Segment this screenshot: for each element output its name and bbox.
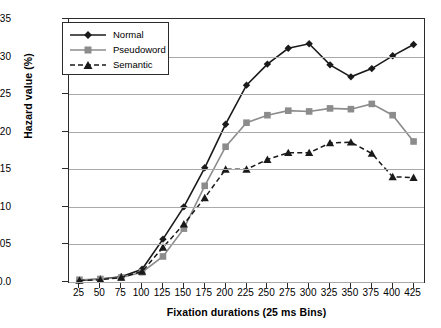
series-line (79, 104, 413, 280)
series-line (79, 142, 413, 280)
y-tick-label: 0.0 (0, 276, 16, 287)
legend: Normal Pseudoword Semantic (62, 22, 169, 75)
data-point-marker (285, 107, 292, 114)
x-tick-label: 425 (393, 287, 433, 298)
legend-item-pseudoword: Pseudoword (63, 42, 168, 57)
y-axis-title: Hazard value (%) (22, 16, 34, 176)
data-point-marker (409, 173, 417, 180)
y-tick-label: 0.15 (0, 163, 16, 174)
legend-item-normal: Normal (63, 27, 168, 42)
gridline (69, 282, 424, 283)
y-tick-label: 0.25 (0, 88, 16, 99)
data-point-marker (410, 41, 417, 48)
series-semantic (75, 138, 417, 284)
data-point-marker (368, 65, 375, 72)
gridline (69, 244, 424, 245)
gridline (69, 207, 424, 208)
legend-label-semantic: Semantic (108, 59, 153, 70)
data-point-marker (348, 106, 355, 113)
data-point-marker (243, 119, 250, 126)
data-point-marker (264, 112, 271, 119)
normal-line-diamond-icon (68, 29, 108, 41)
legend-item-semantic: Semantic (63, 57, 168, 72)
y-tick-label: 0.35 (0, 13, 16, 24)
legend-label-normal: Normal (108, 29, 144, 40)
data-point-marker (368, 101, 375, 108)
y-tick-label: 0.30 (0, 50, 16, 61)
gridline (69, 169, 424, 170)
data-point-marker (306, 108, 313, 115)
gridline (69, 132, 424, 133)
data-point-marker (201, 164, 208, 171)
legend-label-pseudoword: Pseudoword (108, 44, 166, 55)
data-point-marker (410, 138, 417, 145)
y-tick-label: 0.20 (0, 125, 16, 136)
y-tick-label: 0.10 (0, 200, 16, 211)
chart-figure: Hazard value (%) Fixation durations (25 … (0, 0, 441, 328)
pseudoword-line-square-icon (68, 44, 108, 56)
series-normal (76, 40, 418, 284)
data-point-marker (160, 253, 167, 260)
data-point-marker (326, 139, 334, 146)
y-tick-label: 0.05 (0, 238, 16, 249)
x-axis-title: Fixation durations (25 ms Bins) (68, 306, 425, 318)
gridline (69, 94, 424, 95)
data-point-marker (222, 121, 229, 128)
semantic-dashed-triangle-icon (68, 59, 108, 71)
data-point-marker (222, 143, 229, 150)
series-pseudoword (76, 101, 417, 283)
data-point-marker (389, 112, 396, 119)
data-point-marker (327, 105, 334, 112)
data-point-marker (347, 73, 354, 80)
data-point-marker (201, 183, 208, 190)
x-tick-mark (413, 283, 414, 288)
data-point-marker (368, 149, 376, 156)
